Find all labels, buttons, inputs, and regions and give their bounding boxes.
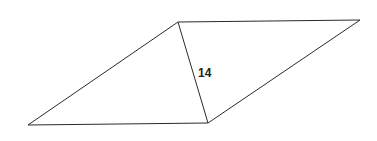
parallelogram-diagram: 14 — [0, 0, 377, 141]
diagonal-length-label: 14 — [198, 66, 212, 80]
parallelogram-outline — [28, 20, 360, 125]
